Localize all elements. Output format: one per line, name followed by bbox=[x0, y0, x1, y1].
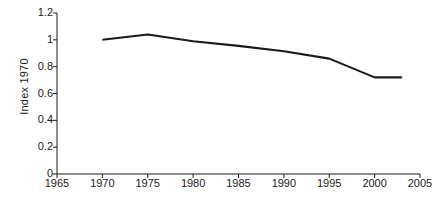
x-axis-ticks bbox=[57, 174, 420, 178]
plot-area bbox=[0, 0, 440, 216]
data-series-line bbox=[102, 34, 401, 77]
y-axis-ticks bbox=[53, 13, 57, 174]
line-chart: Index 1970 00.20.40.60.811.2 19651970197… bbox=[0, 0, 440, 216]
